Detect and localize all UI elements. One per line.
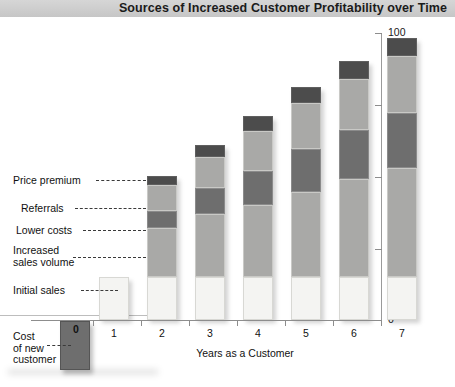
leader-increased-sales-volume — [73, 257, 146, 258]
segment-increased-sales-volume — [243, 205, 273, 277]
y-tick-50 — [375, 177, 382, 178]
x-tick-label-2: 2 — [150, 327, 174, 339]
segment-price-premium — [243, 116, 273, 131]
y-tick-100 — [375, 33, 382, 34]
segment-initial-sales — [387, 277, 417, 320]
segment-referrals — [387, 56, 417, 113]
segment-lower-costs — [243, 171, 273, 205]
x-tick-6 — [381, 320, 382, 326]
segment-price-premium — [387, 38, 417, 56]
segment-lower-costs — [339, 130, 369, 179]
leader-referrals — [75, 208, 146, 209]
leader-lower-costs — [83, 230, 146, 231]
cost-bar-value: 0 — [61, 322, 91, 336]
segment-referrals — [195, 157, 225, 188]
x-axis-title: Years as a Customer — [150, 347, 340, 359]
segment-referrals — [147, 185, 177, 211]
segment-referrals — [339, 79, 369, 130]
segment-increased-sales-volume — [387, 168, 417, 277]
segment-initial-sales — [291, 277, 321, 320]
chart-title: Sources of Increased Customer Profitabil… — [119, 1, 447, 15]
label-price-premium: Price premium — [13, 175, 81, 187]
segment-price-premium — [195, 145, 225, 157]
segment-increased-sales-volume — [339, 179, 369, 277]
x-tick-label-5: 5 — [294, 327, 318, 339]
x-tick-label-3: 3 — [198, 327, 222, 339]
y-tick-75 — [375, 105, 382, 106]
segment-increased-sales-volume — [147, 228, 177, 277]
segment-initial-sales — [147, 277, 177, 320]
label-cost-of-new-customer: Cost of new customer — [13, 331, 56, 366]
label-referrals: Referrals — [21, 203, 64, 215]
plot-area: 100 75 50 25 0 Contribution to Profits — [0, 17, 455, 387]
label-initial-sales: Initial sales — [13, 285, 65, 297]
label-increased-sales-volume: Increased sales volume — [13, 245, 74, 268]
segment-lower-costs — [387, 113, 417, 168]
x-axis-line — [31, 320, 381, 321]
x-tick-label-4: 4 — [246, 327, 270, 339]
segment-price-premium — [147, 176, 177, 185]
segment-referrals — [291, 103, 321, 149]
y-tick-25 — [375, 249, 382, 250]
leader-price-premium — [96, 180, 146, 181]
segment-increased-sales-volume — [291, 192, 321, 277]
segment-lower-costs — [195, 188, 225, 214]
chart-root: Sources of Increased Customer Profitabil… — [0, 0, 455, 387]
x-tick-label-1: 1 — [102, 327, 126, 339]
segment-lower-costs — [147, 211, 177, 228]
y-tick-label-100: 100 — [388, 26, 406, 38]
x-tick-label-7: 7 — [390, 327, 414, 339]
segment-initial-sales — [243, 277, 273, 320]
segment-referrals — [243, 131, 273, 171]
segment-initial-sales — [195, 277, 225, 320]
segment-initial-sales — [99, 277, 129, 320]
leader-initial-sales — [81, 290, 118, 291]
segment-price-premium — [291, 87, 321, 103]
x-tick-label-6: 6 — [342, 327, 366, 339]
segment-price-premium — [339, 61, 369, 79]
label-lower-costs: Lower costs — [16, 225, 72, 237]
segment-increased-sales-volume — [195, 214, 225, 277]
segment-initial-sales — [339, 277, 369, 320]
segment-lower-costs — [291, 149, 321, 192]
leader-cost-of-new-customer — [47, 345, 71, 346]
